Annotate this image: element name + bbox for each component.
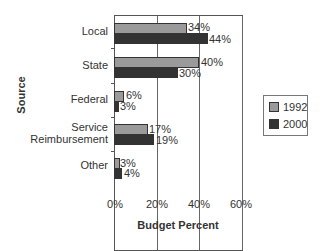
y-tick — [111, 151, 115, 152]
value-label: 44% — [209, 34, 231, 45]
x-tick-label: 0% — [107, 198, 123, 210]
value-label: 19% — [156, 135, 178, 146]
legend-swatch-1992 — [269, 102, 279, 112]
x-axis-title: Budget Percent — [137, 219, 218, 231]
bar-state-2000 — [114, 67, 178, 78]
legend-label: 2000 — [283, 118, 307, 130]
value-label: 4% — [124, 168, 140, 179]
legend: 1992 2000 — [263, 95, 308, 136]
value-label: 40% — [201, 57, 223, 68]
category-label-local: Local — [82, 25, 108, 38]
value-label: 34% — [188, 22, 210, 33]
category-label-state: State — [82, 59, 108, 72]
value-label: 3% — [120, 101, 136, 112]
bar-local-2000 — [114, 33, 208, 44]
category-label-reimbursement: Reimbursement — [30, 133, 108, 146]
category-label-other: Other — [80, 159, 108, 172]
y-tick — [111, 117, 115, 118]
x-tick-label: 40% — [188, 198, 210, 210]
legend-item-1992: 1992 — [269, 101, 307, 113]
legend-swatch-2000 — [269, 119, 279, 129]
value-label: 30% — [179, 68, 201, 79]
legend-item-2000: 2000 — [269, 118, 307, 130]
x-tick-label: 20% — [146, 198, 168, 210]
legend-label: 1992 — [283, 101, 307, 113]
y-tick — [111, 83, 115, 84]
x-tick-label: 60% — [230, 198, 252, 210]
category-label-federal: Federal — [71, 93, 108, 106]
bar-other-2000 — [114, 168, 122, 179]
y-axis-title: Source — [15, 76, 27, 113]
bar-federal-2000 — [114, 101, 119, 112]
bar-service-reimbursement-2000 — [114, 134, 154, 145]
y-tick — [111, 48, 115, 49]
